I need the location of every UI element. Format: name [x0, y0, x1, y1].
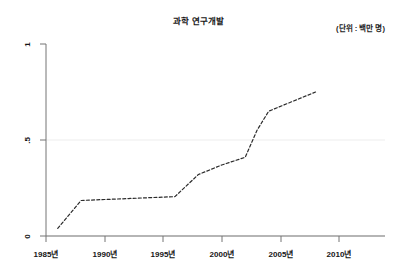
- y-tick-label-1: 1: [23, 37, 32, 53]
- y-tick-label-0: 0: [23, 229, 32, 245]
- chart-container: 과학 연구개발 (단위 : 백만 명) 1 .5: [0, 0, 397, 275]
- data-series-line: [58, 92, 316, 228]
- x-tick-label-2005: 2005년: [251, 248, 311, 259]
- x-tick-label-2010: 2010년: [309, 248, 369, 259]
- y-tick-label-point5: .5: [23, 133, 32, 149]
- y-axis-ticks: [40, 44, 46, 236]
- x-axis-ticks: [46, 236, 339, 242]
- x-tick-label-1985: 1985년: [16, 248, 76, 259]
- gridlines: [46, 140, 385, 236]
- plot-area: [0, 0, 397, 275]
- x-tick-label-2000: 2000년: [192, 248, 252, 259]
- x-tick-label-1995: 1995년: [133, 248, 193, 259]
- x-tick-label-1990: 1990년: [75, 248, 135, 259]
